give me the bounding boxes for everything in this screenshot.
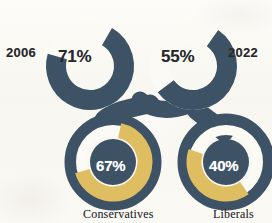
value-label-2006: 71% (58, 47, 91, 67)
year-label-2006: 2006 (6, 45, 36, 60)
party-label-liberals: Liberals (213, 207, 254, 222)
infographic-page: 2006 2022 71% 55% 67% 40% Conservatives … (0, 0, 272, 223)
value-label-2022: 55% (161, 47, 194, 67)
party-label-conservatives: Conservatives (83, 207, 154, 222)
donut-chart-artwork (0, 0, 272, 223)
year-label-2022: 2022 (228, 45, 258, 60)
value-label-liberals: 40% (209, 157, 238, 174)
value-label-conservatives: 67% (96, 157, 125, 174)
